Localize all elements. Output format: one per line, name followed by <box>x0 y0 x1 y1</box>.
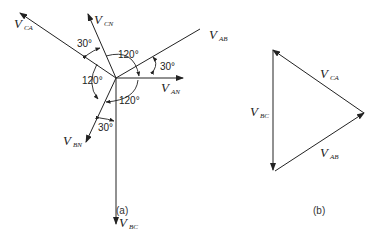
side-v-ab <box>275 113 364 171</box>
figure-a: 30° 30° 120° 120° 120° 30° VCA VCN VAB V… <box>14 12 228 231</box>
phasor-diagram: 30° 30° 120° 120° 120° 30° VCA VCN VAB V… <box>0 0 380 241</box>
label-side-v-ca: VCA <box>320 66 340 82</box>
label-v-bc: VBC <box>119 215 138 231</box>
side-v-ca <box>273 50 364 113</box>
arc-ca-cn <box>87 48 100 55</box>
label-v-ca: VCA <box>14 16 34 32</box>
arc-ab-an <box>153 57 156 70</box>
angle-bn-bc: 30° <box>98 122 113 133</box>
figure-b: VCA VBC VAB (b) <box>250 50 364 216</box>
angle-cn-an: 120° <box>118 49 139 60</box>
label-v-an: VAN <box>161 80 180 96</box>
angle-an-bn: 120° <box>119 95 140 106</box>
label-v-bn: VBN <box>63 133 82 149</box>
caption-a: (a) <box>116 205 128 216</box>
label-side-v-bc: VBC <box>250 104 269 120</box>
angle-ab-an: 30° <box>160 61 175 72</box>
angle-ca-cn: 30° <box>77 38 92 49</box>
angle-ca-bn: 120° <box>82 75 103 86</box>
caption-b: (b) <box>313 205 325 216</box>
label-v-ab: VAB <box>209 27 228 43</box>
label-v-cn: VCN <box>94 12 114 28</box>
label-side-v-ab: VAB <box>320 145 339 161</box>
arc-bn-bc <box>100 118 114 121</box>
